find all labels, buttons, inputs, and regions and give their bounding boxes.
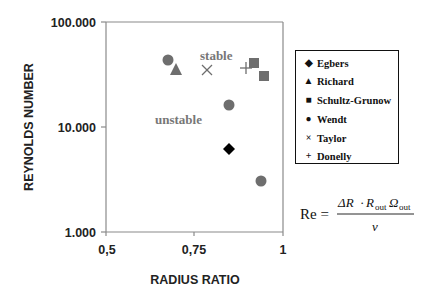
x-tick-0-75: 0,75 (182, 243, 206, 257)
legend-label: Taylor (317, 133, 346, 144)
circle-icon: ● (303, 114, 314, 124)
richard-point (170, 63, 182, 75)
legend-label: Donelly (317, 151, 351, 162)
legend-label: Richard (317, 76, 354, 87)
formula-nu: ν (372, 219, 378, 234)
wendt-point (163, 55, 174, 66)
series-schultz-grunow (249, 58, 269, 81)
formula-lhs: Re = (300, 206, 329, 222)
series-taylor (202, 65, 212, 75)
legend-label: Schultz-Grunow (317, 95, 391, 106)
wendt-point (256, 176, 267, 187)
triangle-icon: ▲ (303, 76, 314, 86)
schultz-grunow-point (259, 71, 269, 81)
annotation-stable: stable (200, 48, 233, 63)
diamond-icon: ◆ (303, 58, 314, 68)
plus-icon: + (303, 151, 314, 161)
svg-text:ΔR: ΔR (337, 195, 354, 210)
axes (101, 22, 283, 236)
series-richard (170, 63, 182, 75)
series-egbers (223, 143, 235, 155)
formula-r: R (365, 195, 374, 210)
y-tick-10000: 10.000 (58, 121, 96, 135)
legend-label: Egbers (317, 58, 349, 69)
legend-item-wendt: ● Wendt (303, 111, 347, 127)
legend: ◆ Egbers ▲ Richard ■ Schultz-Grunow ● We… (295, 50, 399, 164)
y-tick-1000: 1.000 (65, 226, 96, 240)
legend-item-donelly: + Donelly (303, 148, 351, 164)
y-axis-title: REYNOLDS NUMBER (22, 63, 36, 191)
formula-delta-r: ΔR (337, 195, 354, 210)
formula-omega-sub: out (399, 202, 411, 212)
annotation-unstable: unstable (155, 112, 202, 127)
formula-graphic: Re = ΔR · R out Ω out ν (300, 190, 420, 240)
legend-item-egbers: ◆ Egbers (303, 55, 349, 71)
reynolds-formula: Re = ΔR · R out Ω out ν (300, 190, 420, 244)
egbers-point (223, 143, 235, 155)
legend-item-taylor: × Taylor (303, 130, 346, 146)
square-icon: ■ (303, 95, 314, 105)
cross-x-icon: × (303, 133, 314, 143)
schultz-grunow-point (249, 58, 259, 68)
x-axis-title: RADIUS RATIO (150, 273, 240, 287)
formula-dot: · (360, 195, 364, 210)
legend-item-schultz-grunow: ■ Schultz-Grunow (303, 92, 391, 108)
x-tick-1: 1 (280, 243, 287, 257)
x-tick-0-5: 0,5 (98, 243, 115, 257)
legend-label: Wendt (317, 114, 347, 125)
legend-item-richard: ▲ Richard (303, 73, 354, 89)
formula-r-sub: out (375, 202, 387, 212)
formula-omega: Ω (389, 195, 398, 210)
wendt-point (224, 100, 235, 111)
y-tick-100000: 100.000 (51, 16, 96, 30)
